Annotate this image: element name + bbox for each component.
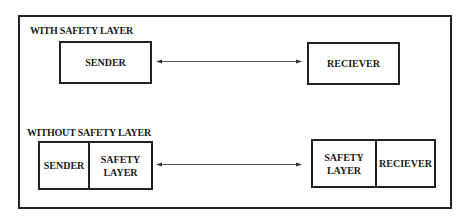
bidirectional-arrow-icon xyxy=(156,160,302,169)
receiver-label: RECIEVER xyxy=(309,44,398,83)
without-safety-layer-label: WITHOUT SAFETY LAYER xyxy=(27,127,151,138)
sender-label: SENDER xyxy=(61,43,150,82)
bidirectional-arrow-icon xyxy=(156,57,302,66)
sender-box: SENDER xyxy=(59,41,152,84)
with-safety-layer-label: WITH SAFETY LAYER xyxy=(30,25,133,36)
sender-cell: SENDER xyxy=(40,143,88,188)
safety-line1: SAFETY xyxy=(101,153,140,166)
safety-line2: LAYER xyxy=(327,164,361,177)
receiver-cell: RECIEVER xyxy=(375,141,434,186)
receiver-with-safety-box: SAFETY LAYER RECIEVER xyxy=(311,139,436,188)
safety-layer-cell-right: SAFETY LAYER xyxy=(313,141,375,186)
safety-line2: LAYER xyxy=(103,166,137,179)
sender-with-safety-box: SENDER SAFETY LAYER xyxy=(38,141,153,190)
safety-line1: SAFETY xyxy=(324,151,363,164)
receiver-box: RECIEVER xyxy=(307,42,400,85)
safety-layer-cell-left: SAFETY LAYER xyxy=(88,143,151,188)
